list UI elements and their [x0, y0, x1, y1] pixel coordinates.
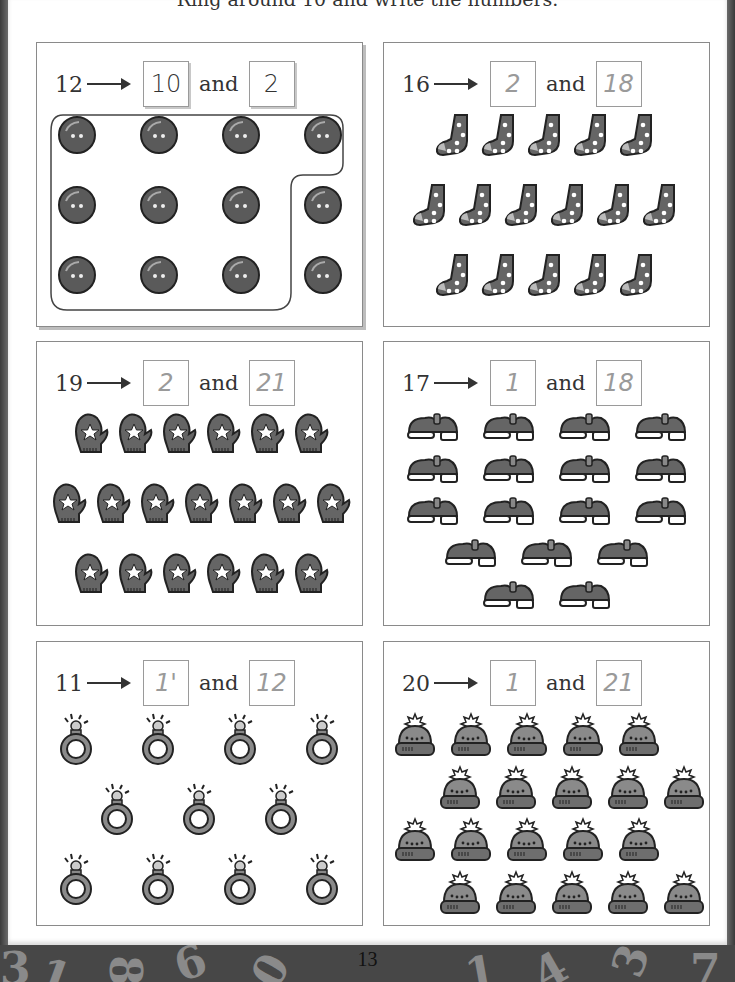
page-edge-left	[0, 0, 8, 982]
total-number: 19	[55, 371, 85, 396]
arrow-right-icon	[434, 83, 476, 85]
shoe-icon	[557, 580, 613, 614]
items-group	[37, 712, 362, 922]
hat-icon	[505, 817, 549, 867]
ring-icon	[221, 712, 261, 770]
answer-box-tens[interactable]: 10	[143, 61, 189, 107]
items-group	[384, 412, 709, 622]
total-number: 16	[402, 72, 432, 97]
items-row	[384, 712, 709, 762]
shoe-icon	[633, 412, 689, 446]
hat-icon	[494, 765, 538, 815]
equation-line: 201and21	[402, 660, 650, 706]
ring-icon	[139, 852, 179, 910]
shoe-icon	[443, 538, 499, 572]
mitten-icon	[93, 482, 131, 530]
sock-icon	[619, 253, 659, 303]
items-row	[384, 538, 709, 572]
equation-line: 171and18	[402, 360, 650, 406]
mitten-icon	[181, 482, 219, 530]
and-label: and	[199, 72, 239, 96]
hat-icon	[449, 817, 493, 867]
exercise-panel-mittens: 192and21	[36, 341, 363, 626]
ring-icon	[303, 712, 343, 770]
answer-box-ones[interactable]: 21	[249, 360, 295, 406]
answer-box-tens[interactable]: 1	[490, 660, 536, 706]
ring-icon	[98, 782, 138, 840]
shoe-icon	[557, 496, 613, 530]
mitten-icon	[49, 482, 87, 530]
hat-icon	[606, 765, 650, 815]
and-label: and	[546, 671, 586, 695]
items-row	[384, 412, 709, 446]
ring-icon	[180, 782, 220, 840]
ring-icon	[57, 852, 97, 910]
answer-box-tens[interactable]: 1'	[143, 660, 189, 706]
hat-icon	[617, 817, 661, 867]
equation-line: 192and21	[55, 360, 303, 406]
items-row	[37, 412, 362, 460]
answer-box-ones[interactable]: 18	[596, 61, 642, 107]
mitten-icon	[203, 552, 241, 600]
shoe-icon	[633, 454, 689, 488]
shoe-icon	[595, 538, 651, 572]
items-row	[37, 482, 362, 530]
sock-icon	[504, 183, 544, 233]
mitten-icon	[247, 412, 285, 460]
sock-icon	[435, 253, 475, 303]
equation-line: 111'and12	[55, 660, 303, 706]
answer-box-ones[interactable]: 18	[596, 360, 642, 406]
hat-icon	[438, 765, 482, 815]
items-row	[37, 712, 362, 770]
equation-line: 162and18	[402, 61, 650, 107]
ring-around-ten-outline	[45, 113, 355, 318]
hat-icon	[617, 712, 661, 762]
answer-box-ones[interactable]: 2	[249, 61, 295, 107]
shoe-icon	[481, 580, 537, 614]
sock-icon	[550, 183, 590, 233]
sock-icon	[412, 183, 452, 233]
hat-icon	[561, 817, 605, 867]
shoe-icon	[519, 538, 575, 572]
answer-box-tens[interactable]: 2	[490, 61, 536, 107]
total-number: 11	[55, 671, 85, 696]
hat-icon	[606, 870, 650, 920]
ring-icon	[221, 852, 261, 910]
exercise-panel-buttons: 1210and2	[36, 42, 363, 327]
hat-icon	[494, 870, 538, 920]
hat-icon	[550, 870, 594, 920]
instruction-heading: Ring around 10 and write the numbers.	[0, 0, 735, 10]
shoe-icon	[633, 496, 689, 530]
mitten-icon	[269, 482, 307, 530]
answer-box-ones[interactable]: 12	[249, 660, 295, 706]
items-row	[37, 782, 362, 840]
items-row	[384, 765, 709, 815]
mitten-icon	[203, 412, 241, 460]
mitten-icon	[115, 412, 153, 460]
items-row	[384, 253, 709, 303]
exercise-panel-shoes: 171and18	[383, 341, 710, 626]
hat-icon	[662, 870, 706, 920]
sock-icon	[573, 113, 613, 163]
page-footer: 3 1 8 6 0 13 1 4 3 7	[0, 945, 735, 982]
items-row	[384, 870, 709, 920]
items-row	[37, 852, 362, 910]
total-number: 20	[402, 671, 432, 696]
hat-icon	[438, 870, 482, 920]
shoe-icon	[481, 496, 537, 530]
page-edge-right	[727, 0, 735, 982]
answer-box-tens[interactable]: 1	[490, 360, 536, 406]
items-row	[384, 454, 709, 488]
sock-icon	[596, 183, 636, 233]
shoe-icon	[405, 412, 461, 446]
answer-box-tens[interactable]: 2	[143, 360, 189, 406]
ring-icon	[57, 712, 97, 770]
answer-box-ones[interactable]: 21	[596, 660, 642, 706]
sock-icon	[619, 113, 659, 163]
items-row	[384, 183, 709, 233]
mitten-icon	[71, 412, 109, 460]
mitten-icon	[247, 552, 285, 600]
exercise-panel-rings: 111'and12	[36, 641, 363, 926]
items-group	[384, 712, 709, 922]
shoe-icon	[405, 496, 461, 530]
